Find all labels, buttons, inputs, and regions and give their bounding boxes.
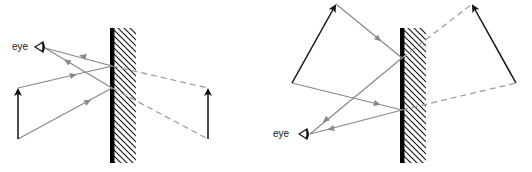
- eye-icon: [35, 42, 44, 52]
- ray-top: [310, 4, 402, 134]
- virtual-ray-top: [402, 4, 472, 58]
- mirror-surface: [110, 28, 115, 163]
- eye-label: eye: [273, 128, 290, 139]
- image-arrow: [473, 6, 516, 83]
- eye-icon: [299, 129, 308, 139]
- ray-bottom: [292, 83, 402, 134]
- object-arrow: [292, 6, 335, 83]
- ray-arrowheads: [62, 52, 92, 105]
- mirror-reflection-diagram: eye: [0, 0, 532, 172]
- right-diagram: eye: [273, 2, 516, 172]
- ray-top: [18, 48, 112, 88]
- mirror-surface: [400, 28, 405, 163]
- eye-label: eye: [12, 41, 29, 52]
- left-diagram: eye: [12, 2, 208, 172]
